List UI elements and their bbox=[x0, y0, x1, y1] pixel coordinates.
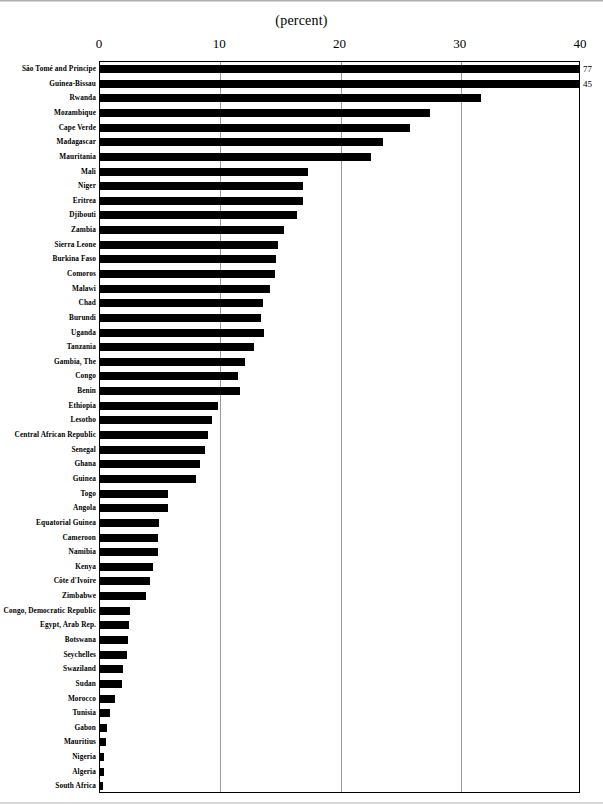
category-label: Egypt, Arab Rep. bbox=[40, 622, 96, 629]
bar-rows: São Tomé and Principe77Guinea-Bissau45Rw… bbox=[0, 61, 603, 793]
category-label: Uganda bbox=[71, 329, 96, 336]
bar bbox=[99, 372, 238, 380]
category-label: Ethiopia bbox=[68, 402, 96, 409]
bar bbox=[99, 402, 218, 410]
x-tick-label-40: 40 bbox=[574, 36, 587, 52]
bar bbox=[99, 709, 110, 717]
category-label: Togo bbox=[80, 490, 96, 497]
category-label: Algeria bbox=[72, 768, 96, 775]
category-label: Côte d'Ivoire bbox=[54, 578, 96, 585]
x-tick-label-10: 10 bbox=[213, 36, 226, 52]
chart-container: (percent) 010203040 São Tomé and Princip… bbox=[0, 0, 603, 804]
category-label: Ghana bbox=[74, 461, 96, 468]
bar-value-label: 77 bbox=[583, 65, 592, 74]
bar bbox=[99, 534, 158, 542]
bar bbox=[99, 651, 127, 659]
bar bbox=[99, 460, 200, 468]
bar bbox=[99, 343, 254, 351]
category-label: Morocco bbox=[68, 695, 96, 702]
category-label: Central African Republic bbox=[15, 431, 96, 438]
category-label: South Africa bbox=[55, 783, 96, 790]
category-label: Cape Verde bbox=[59, 124, 96, 131]
bar bbox=[99, 416, 212, 424]
bar bbox=[99, 768, 104, 776]
category-label: Mauritania bbox=[59, 153, 96, 160]
scan-edge-top bbox=[0, 0, 603, 2]
x-axis-tick-labels: 010203040 bbox=[0, 36, 603, 54]
bar bbox=[99, 138, 383, 146]
category-label: Zambia bbox=[71, 226, 96, 233]
bar bbox=[99, 490, 168, 498]
category-label: Mozambique bbox=[54, 109, 96, 116]
bar bbox=[99, 695, 115, 703]
bar bbox=[99, 563, 153, 571]
category-label: Gabon bbox=[74, 724, 96, 731]
bar bbox=[99, 94, 481, 102]
bar bbox=[99, 621, 129, 629]
category-label: Guinea-Bissau bbox=[49, 80, 96, 87]
bar bbox=[99, 387, 240, 395]
bar bbox=[99, 738, 106, 746]
bar bbox=[99, 636, 128, 644]
category-label: Malawi bbox=[72, 285, 96, 292]
bar bbox=[99, 548, 158, 556]
category-label: Gambia, The bbox=[54, 358, 96, 365]
x-tick-label-20: 20 bbox=[333, 36, 346, 52]
bar bbox=[99, 358, 245, 366]
category-label: Congo, Democratic Republic bbox=[4, 607, 96, 614]
bar bbox=[99, 314, 261, 322]
bar bbox=[99, 782, 103, 790]
category-label: Madagascar bbox=[56, 139, 96, 146]
bar bbox=[99, 299, 263, 307]
category-label: Swaziland bbox=[63, 666, 96, 673]
bar bbox=[99, 241, 278, 249]
category-label: Zimbabwe bbox=[62, 592, 96, 599]
bar bbox=[99, 519, 159, 527]
category-label: Tanzania bbox=[67, 344, 96, 351]
bar bbox=[99, 197, 303, 205]
bar bbox=[99, 80, 580, 88]
bar-value-label: 45 bbox=[583, 79, 592, 88]
chart-title: (percent) bbox=[0, 13, 603, 29]
x-tick-label-0: 0 bbox=[96, 36, 103, 52]
bar bbox=[99, 446, 205, 454]
category-label: São Tomé and Principe bbox=[22, 65, 96, 72]
category-label: Comoros bbox=[67, 270, 96, 277]
category-label: Botswana bbox=[65, 636, 96, 643]
category-label: Namibia bbox=[69, 549, 96, 556]
bar bbox=[99, 285, 270, 293]
category-label: Chad bbox=[79, 300, 96, 307]
category-label: Rwanda bbox=[69, 95, 96, 102]
bar bbox=[99, 504, 168, 512]
bar bbox=[99, 724, 107, 732]
bar bbox=[99, 607, 130, 615]
category-label: Equatorial Guinea bbox=[36, 519, 96, 526]
bar bbox=[99, 153, 371, 161]
bar bbox=[99, 475, 196, 483]
category-label: Congo bbox=[75, 373, 96, 380]
category-label: Nigeria bbox=[72, 753, 96, 760]
category-label: Sierra Leone bbox=[54, 241, 96, 248]
bar bbox=[99, 109, 430, 117]
category-label: Lesotho bbox=[71, 417, 96, 424]
category-label: Burundi bbox=[69, 314, 96, 321]
category-label: Senegal bbox=[71, 446, 96, 453]
category-label: Sudan bbox=[76, 680, 96, 687]
bar bbox=[99, 753, 104, 761]
x-tick-label-30: 30 bbox=[453, 36, 466, 52]
bar-row: South Africa bbox=[0, 778, 603, 794]
bar bbox=[99, 665, 123, 673]
bar bbox=[99, 431, 208, 439]
category-label: Benin bbox=[77, 387, 96, 394]
bar bbox=[99, 329, 264, 337]
category-label: Tunisia bbox=[72, 710, 96, 717]
category-label: Burkina Faso bbox=[52, 256, 96, 263]
bar bbox=[99, 182, 303, 190]
bar bbox=[99, 270, 275, 278]
category-label: Eritrea bbox=[73, 197, 96, 204]
bar bbox=[99, 168, 308, 176]
bar bbox=[99, 577, 150, 585]
bar bbox=[99, 680, 122, 688]
bar bbox=[99, 255, 276, 263]
category-label: Cameroon bbox=[63, 534, 97, 541]
